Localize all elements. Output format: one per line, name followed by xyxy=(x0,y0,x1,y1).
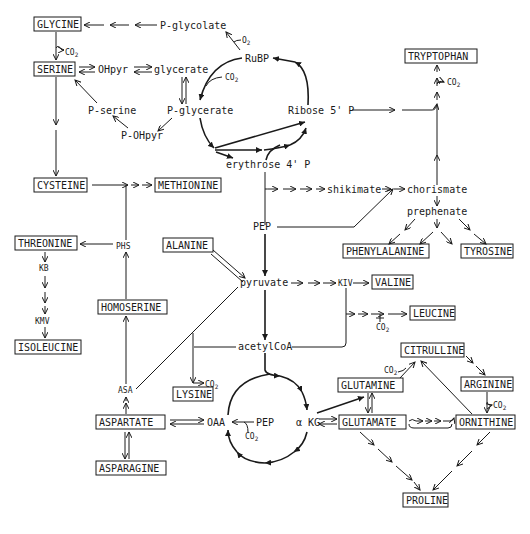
glutamate-label: GLUTAMATE xyxy=(342,417,396,428)
isoleucine-label: ISOLEUCINE xyxy=(18,342,78,353)
kb-label: KB xyxy=(39,264,49,273)
co2-lysine-label: CO2 xyxy=(205,380,219,390)
kmv-label: KMV xyxy=(35,317,50,326)
serine-label: SERINE xyxy=(37,64,73,75)
co2-arginine-label: CO2 xyxy=(493,401,507,411)
citrulline-label: CITRULLINE xyxy=(404,345,464,356)
asa-label: ASA xyxy=(118,386,133,395)
shikimate-label: shikimate xyxy=(327,184,381,195)
homoserine-label: HOMOSERINE xyxy=(101,302,161,313)
ornithine-label: ORNITHINE xyxy=(459,417,513,428)
pyruvate-label: pyruvate xyxy=(240,277,288,288)
erythrose-4p-label: erythrose 4' P xyxy=(226,159,310,170)
cysteine-label: CYSTEINE xyxy=(37,180,85,191)
prephenate-label: prephenate xyxy=(407,206,467,217)
glutamine-label: GLUTAMINE xyxy=(341,380,395,391)
acetylcoa-label: acetylCoA xyxy=(238,341,292,352)
intermediate-labels: P-glycolate RuBP OHpyr glycerate P-serin… xyxy=(35,20,507,442)
proline-label: PROLINE xyxy=(406,495,448,506)
p-glycolate-label: P-glycolate xyxy=(160,20,226,31)
co2-citrulline-label: CO2 xyxy=(384,366,398,376)
tryptophan-label: TRYPTOPHAN xyxy=(408,51,468,62)
alanine-label: ALANINE xyxy=(166,240,208,251)
co2-glycine-label: CO2 xyxy=(65,48,79,58)
asparagine-label: ASPARAGINE xyxy=(99,463,159,474)
o2-label: O2 xyxy=(242,36,251,46)
tyrosine-label: TYROSINE xyxy=(464,246,512,257)
glycine-label: GLYCINE xyxy=(37,19,79,30)
aspartate-label: ASPARTATE xyxy=(99,417,153,428)
leucine-label: LEUCINE xyxy=(413,308,455,319)
ohpyr-label: OHpyr xyxy=(98,64,128,75)
co2-tryptophan-label: CO2 xyxy=(447,78,461,88)
ribose-5p-label: Ribose 5' P xyxy=(288,105,354,116)
oaa-label: OAA xyxy=(207,417,225,428)
p-serine-label: P-serine xyxy=(88,105,136,116)
threonine-label: THREONINE xyxy=(18,238,72,249)
valine-label: VALINE xyxy=(375,277,411,288)
phs-label: PHS xyxy=(116,242,131,251)
pep-label: PEP xyxy=(253,221,271,232)
amino-acid-biosynthesis-diagram: GLYCINE SERINE CYSTEINE METHIONINE THREO… xyxy=(0,0,530,534)
phenylalanine-label: PHENYLALANINE xyxy=(346,246,424,257)
chorismate-label: chorismate xyxy=(407,184,467,195)
rubp-label: RuBP xyxy=(245,53,269,64)
glycerate-label: glycerate xyxy=(154,64,208,75)
alpha-kg-label: α KG xyxy=(296,417,320,428)
co2-rubisco-label: CO2 xyxy=(225,73,239,83)
co2-leucine-label: CO2 xyxy=(376,323,390,333)
methionine-label: METHIONINE xyxy=(158,180,218,191)
pep-anaplerotic-label: PEP xyxy=(256,417,274,428)
arginine-label: ARGININE xyxy=(464,379,512,390)
p-glycerate-label: P-glycerate xyxy=(167,105,233,116)
co2-pep-label: CO2 xyxy=(245,432,259,442)
p-ohpyr-label: P-OHpyr xyxy=(121,130,163,141)
kiv-label: KIV xyxy=(338,279,353,288)
lysine-label: LYSINE xyxy=(176,389,212,400)
